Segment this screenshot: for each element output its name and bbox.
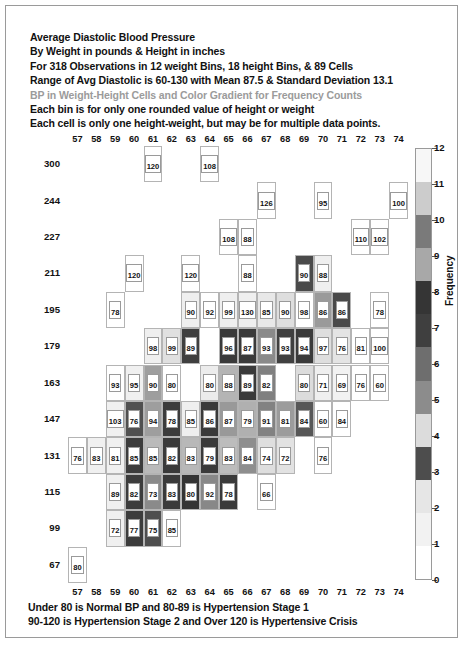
heatmap-cell[interactable]: 92 xyxy=(200,292,219,328)
heatmap-cell[interactable]: 93 xyxy=(257,328,276,364)
heatmap-cell[interactable]: 88 xyxy=(219,365,238,401)
cell-value: 97 xyxy=(319,344,327,353)
heatmap-cell[interactable]: 80 xyxy=(181,474,200,510)
cell-value-box: 79 xyxy=(203,447,215,465)
heatmap-cell[interactable]: 120 xyxy=(125,255,144,291)
heatmap-cell[interactable]: 76 xyxy=(351,365,370,401)
heatmap-cell[interactable]: 81 xyxy=(351,328,370,364)
heatmap-cell[interactable]: 99 xyxy=(219,292,238,328)
heatmap-cell[interactable]: 120 xyxy=(181,255,200,291)
heatmap-cell[interactable]: 100 xyxy=(370,328,389,364)
heatmap-cell[interactable]: 94 xyxy=(144,401,163,437)
heatmap-cell[interactable]: 86 xyxy=(200,401,219,437)
heatmap-cell[interactable]: 60 xyxy=(314,401,333,437)
heatmap-cell[interactable]: 97 xyxy=(314,328,333,364)
heatmap-cell[interactable]: 78 xyxy=(219,474,238,510)
cell-value-box: 85 xyxy=(260,301,272,319)
cell-value-box: 76 xyxy=(355,374,367,392)
heatmap-cell[interactable]: 89 xyxy=(238,365,257,401)
heatmap-cell[interactable]: 83 xyxy=(219,437,238,473)
heatmap-cell[interactable]: 100 xyxy=(389,182,408,218)
heatmap-cell[interactable]: 81 xyxy=(276,401,295,437)
heatmap-cell[interactable]: 76 xyxy=(125,401,144,437)
heatmap-cell[interactable]: 76 xyxy=(332,328,351,364)
heatmap-cell[interactable]: 90 xyxy=(181,292,200,328)
heatmap-cell[interactable]: 85 xyxy=(125,437,144,473)
heatmap-cell[interactable]: 80 xyxy=(68,547,87,583)
cell-value-box: 76 xyxy=(336,337,348,355)
heatmap-cell[interactable]: 71 xyxy=(314,365,333,401)
heatmap-cell[interactable]: 78 xyxy=(370,292,389,328)
heatmap-cell[interactable]: 88 xyxy=(314,255,333,291)
cell-value-box: 102 xyxy=(371,228,388,246)
heatmap-cell[interactable]: 92 xyxy=(200,474,219,510)
heatmap-cell[interactable]: 74 xyxy=(257,437,276,473)
cell-value-box: 98 xyxy=(147,337,159,355)
heatmap-cell[interactable]: 108 xyxy=(219,219,238,255)
heatmap-cell[interactable]: 98 xyxy=(295,292,314,328)
heatmap-cell[interactable]: 93 xyxy=(276,328,295,364)
heatmap-cell[interactable]: 95 xyxy=(125,365,144,401)
heatmap-cell[interactable]: 77 xyxy=(125,510,144,546)
heatmap-cell[interactable]: 87 xyxy=(219,401,238,437)
heatmap-cell[interactable]: 69 xyxy=(332,365,351,401)
heatmap-cell[interactable]: 80 xyxy=(295,365,314,401)
heatmap-cell[interactable]: 90 xyxy=(295,255,314,291)
heatmap-cell[interactable]: 89 xyxy=(181,328,200,364)
heatmap-cell[interactable]: 108 xyxy=(200,146,219,182)
heatmap-cell[interactable]: 130 xyxy=(238,292,257,328)
heatmap-cell[interactable]: 102 xyxy=(370,219,389,255)
heatmap-cell[interactable]: 79 xyxy=(200,437,219,473)
heatmap-cell[interactable]: 60 xyxy=(370,365,389,401)
heatmap-cell[interactable]: 103 xyxy=(106,401,125,437)
cell-value-box: 84 xyxy=(241,447,253,465)
heatmap-cell[interactable]: 95 xyxy=(314,182,333,218)
heatmap-cell[interactable]: 94 xyxy=(295,328,314,364)
heatmap-cell[interactable]: 89 xyxy=(106,474,125,510)
heatmap-cell[interactable]: 98 xyxy=(144,328,163,364)
heatmap-cell[interactable]: 80 xyxy=(162,365,181,401)
heatmap-cell[interactable]: 85 xyxy=(144,437,163,473)
heatmap-cell[interactable]: 76 xyxy=(68,437,87,473)
heatmap-cell[interactable]: 91 xyxy=(257,401,276,437)
heatmap-cell[interactable]: 85 xyxy=(181,401,200,437)
heatmap-cell[interactable]: 84 xyxy=(332,401,351,437)
heatmap-cell[interactable]: 72 xyxy=(106,510,125,546)
heatmap-cell[interactable]: 78 xyxy=(106,292,125,328)
heatmap-cell[interactable]: 83 xyxy=(87,437,106,473)
heatmap-cell[interactable]: 85 xyxy=(162,510,181,546)
heatmap-cell[interactable]: 84 xyxy=(295,401,314,437)
heatmap-cell[interactable]: 90 xyxy=(276,292,295,328)
heatmap-cell[interactable]: 88 xyxy=(238,219,257,255)
heatmap-cell[interactable]: 80 xyxy=(200,365,219,401)
cell-value: 88 xyxy=(243,235,251,244)
heatmap-cell[interactable]: 85 xyxy=(257,292,276,328)
heatmap-cell[interactable]: 78 xyxy=(162,401,181,437)
heatmap-cell[interactable]: 86 xyxy=(314,292,333,328)
heatmap-cell[interactable]: 82 xyxy=(125,474,144,510)
heatmap-cell[interactable]: 75 xyxy=(144,510,163,546)
heatmap-cell[interactable]: 126 xyxy=(257,182,276,218)
heatmap-cell[interactable]: 99 xyxy=(162,328,181,364)
heatmap-cell[interactable]: 66 xyxy=(257,474,276,510)
y-axis-tick-244: 244 xyxy=(26,195,60,206)
heatmap-cell[interactable]: 84 xyxy=(238,437,257,473)
heatmap-cell[interactable]: 82 xyxy=(257,365,276,401)
heatmap-cell[interactable]: 90 xyxy=(144,365,163,401)
heatmap-cell[interactable]: 81 xyxy=(106,437,125,473)
heatmap-cell[interactable]: 83 xyxy=(181,437,200,473)
cell-value: 94 xyxy=(149,417,157,426)
heatmap-cell[interactable]: 79 xyxy=(238,401,257,437)
heatmap-cell[interactable]: 88 xyxy=(238,255,257,291)
heatmap-cell[interactable]: 87 xyxy=(238,328,257,364)
heatmap-cell[interactable]: 76 xyxy=(314,437,333,473)
heatmap-cell[interactable]: 110 xyxy=(351,219,370,255)
heatmap-cell[interactable]: 83 xyxy=(162,474,181,510)
heatmap-cell[interactable]: 73 xyxy=(144,474,163,510)
heatmap-cell[interactable]: 93 xyxy=(106,365,125,401)
heatmap-cell[interactable]: 120 xyxy=(144,146,163,182)
heatmap-cell[interactable]: 96 xyxy=(219,328,238,364)
heatmap-cell[interactable]: 82 xyxy=(162,437,181,473)
heatmap-cell[interactable]: 86 xyxy=(332,292,351,328)
heatmap-cell[interactable]: 72 xyxy=(276,437,295,473)
